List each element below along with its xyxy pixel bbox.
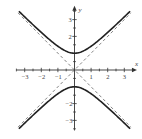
x-tick-label: 3 [123,73,126,80]
x-axis-label: x [134,60,139,68]
plot-canvas: −3−2−1123−3−223xy [0,0,142,139]
y-tick-label: −2 [66,100,73,107]
x-tick-label: 2 [106,73,109,80]
y-tick-label: −3 [66,117,73,124]
x-tick-label: −1 [55,73,62,80]
y-tick-label: 3 [69,16,72,23]
x-tick-label: −2 [38,73,45,80]
y-axis-label: y [78,6,83,14]
y-tick-label: 2 [69,33,72,40]
x-tick-label: 1 [90,73,93,80]
hyperbola-plot: −3−2−1123−3−223xy [0,0,142,139]
x-tick-label: −3 [22,73,29,80]
y-axis-arrow-icon [72,6,76,11]
